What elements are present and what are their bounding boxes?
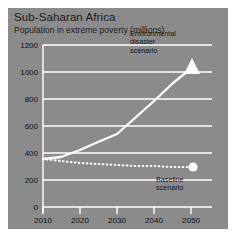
ytick-label-1200: 1200	[8, 41, 38, 50]
ytick-label-0: 0	[8, 203, 38, 212]
annotation-baseline-line2: scenario	[156, 184, 184, 192]
xtick-label-2010: 2010	[28, 216, 58, 225]
annotation-baseline: Baseline scenario	[156, 176, 184, 193]
series-marker-arrowhead-up	[184, 58, 200, 74]
series-line-environmental-disaster	[43, 70, 189, 159]
xtick-label-2020: 2020	[65, 216, 95, 225]
xtick-label-2040: 2040	[139, 216, 169, 225]
xtick-label-2050: 2050	[176, 216, 206, 225]
ytick-label-200: 200	[8, 176, 38, 185]
ytick-label-600: 600	[8, 122, 38, 131]
series-marker-circle	[188, 162, 197, 171]
plot-svg	[8, 8, 228, 229]
ytick-label-400: 400	[8, 149, 38, 158]
x-tick-marks	[43, 207, 191, 214]
annotation-environmental-disaster: Environmental disaster scenario	[130, 30, 176, 55]
ytick-label-1000: 1000	[8, 68, 38, 77]
ytick-label-800: 800	[8, 95, 38, 104]
annotation-disaster-line3: scenario	[130, 47, 176, 55]
chart-figure: Sub-Saharan Africa Population in extreme…	[8, 8, 228, 229]
xtick-label-2030: 2030	[102, 216, 132, 225]
series-line-baseline	[43, 159, 188, 167]
plot-area: 1200 1000 800 600 400 200 0 2010 2020 20…	[8, 8, 228, 229]
